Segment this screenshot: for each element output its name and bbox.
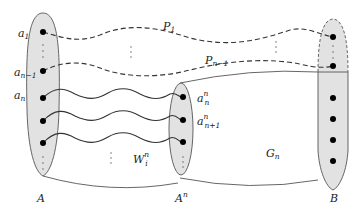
path-pn-1 (43, 61, 333, 76)
label-set-a: A (36, 192, 45, 205)
label-ann: ann (197, 89, 209, 107)
label-an: an (14, 89, 26, 103)
label-set-an: An (174, 190, 188, 205)
ellipsis-marks (110, 41, 276, 163)
label-an1n: ann+1 (197, 112, 220, 130)
label-p1: P1 (162, 20, 175, 34)
label-wi: Wni (133, 150, 149, 168)
linkage-diagram: a1 an−1 an ann ann+1 P1 Pn−1 Wni Gn A An… (0, 0, 360, 216)
label-set-b: B (329, 192, 338, 205)
linkage-w (43, 89, 181, 143)
set-a (27, 13, 60, 176)
path-p1 (43, 28, 333, 43)
label-a1: a1 (18, 27, 29, 41)
label-pn-1: Pn−1 (204, 54, 228, 68)
set-b (318, 19, 348, 190)
label-gn: Gn (266, 147, 280, 161)
